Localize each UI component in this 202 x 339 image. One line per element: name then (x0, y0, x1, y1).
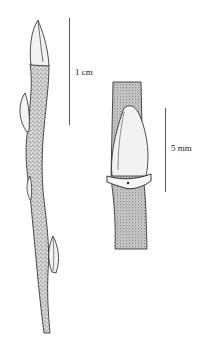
scale-label-1cm: 1 cm (75, 67, 93, 77)
bud-closeup-drawing (107, 82, 151, 249)
scale-bar-1cm (69, 18, 70, 125)
botanical-illustration (0, 0, 202, 339)
scale-label-5mm: 5 mm (171, 143, 192, 153)
scale-bar-5mm (165, 108, 166, 192)
twig-drawing (20, 20, 59, 333)
